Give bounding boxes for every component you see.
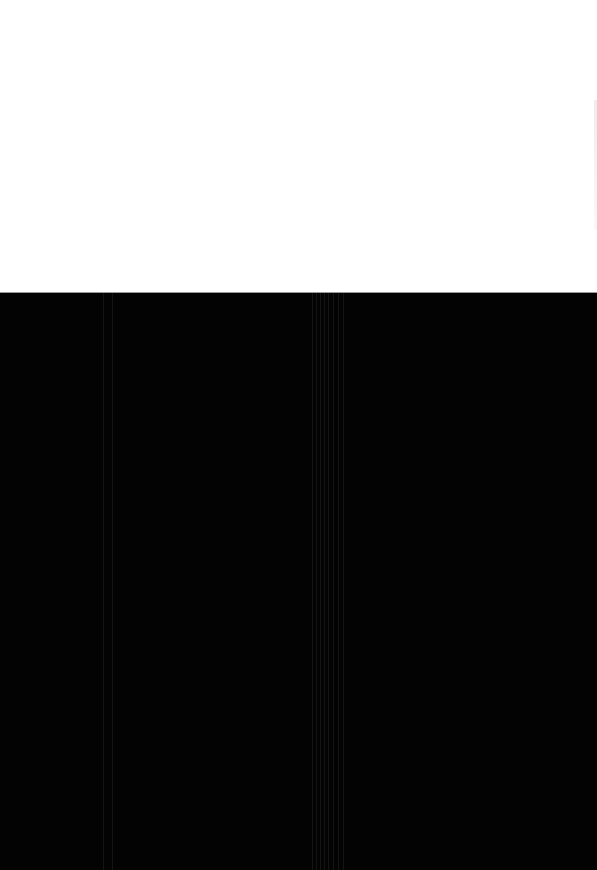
render-artifact-streak [316, 293, 317, 870]
white-content-area [0, 0, 597, 292]
render-artifact-streak [328, 293, 329, 870]
render-artifact-streak [333, 293, 334, 870]
render-artifact-streak [343, 293, 344, 870]
render-artifact-streak [338, 293, 339, 870]
black-render-area [0, 293, 597, 870]
blank-page [0, 0, 597, 870]
render-artifact-streak [324, 293, 325, 870]
render-artifact-streak [312, 293, 313, 870]
render-artifact-streak [320, 293, 321, 870]
render-artifact-streak [103, 293, 104, 870]
render-artifact-streak [112, 293, 113, 870]
